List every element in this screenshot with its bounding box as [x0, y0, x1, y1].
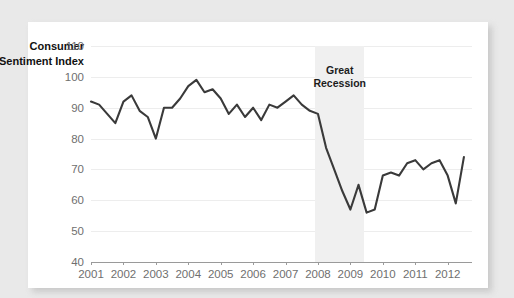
- y-axis-tick-label: 90: [71, 102, 84, 114]
- x-axis-tick-label: 2009: [338, 268, 364, 280]
- x-axis-tick-mark: [415, 262, 416, 265]
- page-background: Consumer Sentiment Index 405060708090100…: [0, 0, 514, 298]
- x-axis-tick-mark: [286, 262, 287, 265]
- x-axis-tick-label: 2008: [305, 268, 331, 280]
- consumer-sentiment-line: [91, 80, 464, 213]
- y-axis-tick-label: 60: [71, 194, 84, 206]
- x-axis-tick-label: 2004: [175, 268, 201, 280]
- x-axis-tick-mark: [318, 262, 319, 265]
- x-axis-tick-label: 2001: [78, 268, 104, 280]
- x-axis-tick-mark: [188, 262, 189, 265]
- x-axis-tick-mark: [123, 262, 124, 265]
- y-axis-tick-label: 70: [71, 163, 84, 175]
- x-axis-tick-label: 2003: [143, 268, 169, 280]
- x-axis-tick-label: 2007: [273, 268, 299, 280]
- x-axis-tick-mark: [156, 262, 157, 265]
- chart-plot-area: Consumer Sentiment Index 405060708090100…: [91, 46, 472, 262]
- y-axis-tick-label: 100: [65, 71, 84, 83]
- y-axis-tick-label: 80: [71, 133, 84, 145]
- x-axis-tick-label: 2012: [435, 268, 461, 280]
- y-axis-tick-label: 50: [71, 225, 84, 237]
- x-axis-tick-label: 2011: [403, 268, 428, 280]
- x-axis-tick-mark: [383, 262, 384, 265]
- y-axis-tick-label: 110: [66, 40, 84, 52]
- x-axis-tick-label: 2002: [111, 268, 137, 280]
- x-axis-tick-label: 2005: [208, 268, 234, 280]
- x-axis-tick-mark: [448, 262, 449, 265]
- x-axis-tick-label: 2010: [370, 268, 396, 280]
- x-axis-tick-mark: [253, 262, 254, 265]
- x-axis-tick-mark: [350, 262, 351, 265]
- x-axis-tick-mark: [221, 262, 222, 265]
- x-axis-tick-label: 2006: [240, 268, 266, 280]
- y-axis-tick-label: 40: [71, 256, 84, 268]
- series-line-chart: [91, 46, 472, 262]
- x-axis-tick-mark: [91, 262, 92, 265]
